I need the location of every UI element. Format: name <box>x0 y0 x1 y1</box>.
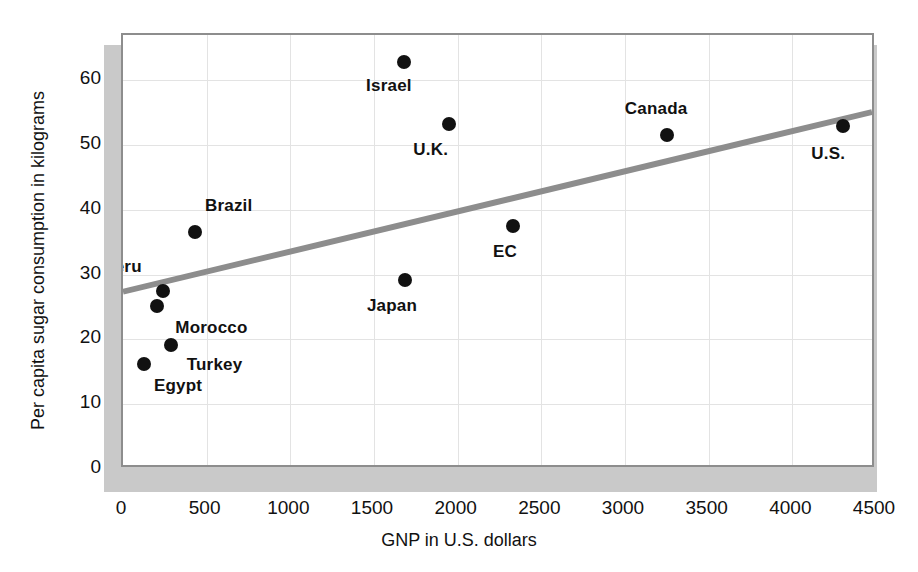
data-point-label: Brazil <box>205 196 253 216</box>
data-point[interactable] <box>150 299 164 313</box>
y-tick-label: 30 <box>59 262 101 284</box>
data-point-label: Japan <box>367 296 417 316</box>
data-point-label: Turkey <box>187 355 243 375</box>
y-tick-label: 0 <box>59 456 101 478</box>
y-axis-ticks: 0102030405060 <box>55 0 101 572</box>
x-tick-label: 3000 <box>602 497 644 519</box>
data-point[interactable] <box>188 225 202 239</box>
x-tick-label: 3500 <box>686 497 728 519</box>
plot-inner: EgyptMoroccoPeruTurkeyBrazilIsraelJapanU… <box>123 35 872 465</box>
y-tick-label: 20 <box>59 326 101 348</box>
data-point[interactable] <box>156 284 170 298</box>
x-tick-label: 2000 <box>435 497 477 519</box>
data-point[interactable] <box>506 219 520 233</box>
y-tick-label: 50 <box>59 132 101 154</box>
y-tick-label: 40 <box>59 197 101 219</box>
x-tick-label: 2500 <box>518 497 560 519</box>
y-axis-title: Per capita sugar consumption in kilogram… <box>28 71 49 451</box>
data-point-label: U.K. <box>413 140 448 160</box>
data-point-label: EC <box>493 242 517 262</box>
x-axis-ticks: 050010001500200025003000350040004500 <box>0 497 918 523</box>
data-point-label: U.S. <box>811 144 845 164</box>
scatter-chart-figure: EgyptMoroccoPeruTurkeyBrazilIsraelJapanU… <box>0 0 918 572</box>
data-point[interactable] <box>398 273 412 287</box>
y-tick-label: 10 <box>59 391 101 413</box>
x-tick-label: 500 <box>189 497 221 519</box>
data-point[interactable] <box>137 357 151 371</box>
plot-area: EgyptMoroccoPeruTurkeyBrazilIsraelJapanU… <box>121 33 874 467</box>
data-point-label: Egypt <box>154 376 202 396</box>
data-point-label: Israel <box>366 76 412 96</box>
data-point[interactable] <box>164 338 178 352</box>
x-axis-title: GNP in U.S. dollars <box>0 530 918 551</box>
data-point-label: Morocco <box>175 318 247 338</box>
x-tick-label: 4000 <box>769 497 811 519</box>
x-tick-label: 4500 <box>853 497 895 519</box>
y-tick-label: 60 <box>59 67 101 89</box>
x-tick-label: 1500 <box>351 497 393 519</box>
x-tick-label: 0 <box>116 497 127 519</box>
data-point-label: Peru <box>123 257 142 277</box>
data-point-label: Canada <box>625 99 688 119</box>
x-tick-label: 1000 <box>267 497 309 519</box>
